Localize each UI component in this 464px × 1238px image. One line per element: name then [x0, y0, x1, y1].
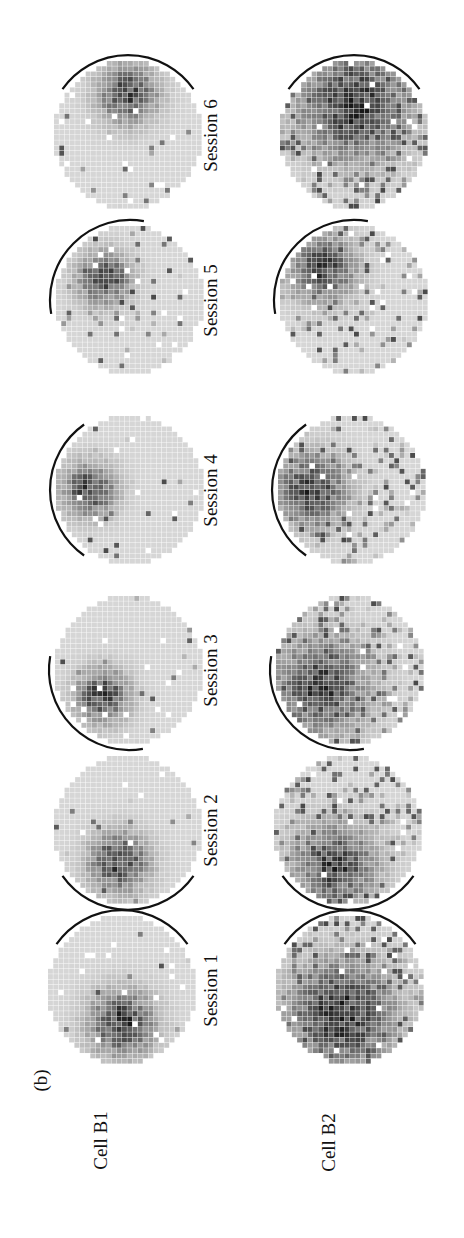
rate-map: [274, 756, 422, 904]
session-label-5: Session 5: [201, 264, 220, 336]
rate-map: [54, 756, 202, 904]
panel-label: (b): [31, 1069, 50, 1091]
session-label-6: Session 6: [201, 99, 220, 171]
rate-map: [276, 596, 424, 744]
rate-map: [280, 226, 428, 374]
rate-map: [56, 416, 204, 564]
session-label-4: Session 4: [201, 454, 220, 526]
session-label-1: Session 1: [201, 954, 220, 1026]
figure-canvas: [0, 0, 464, 1238]
row-label-cell-b1: Cell B1: [90, 1111, 109, 1170]
rate-map: [276, 916, 424, 1064]
session-label-3: Session 3: [201, 634, 220, 706]
rate-map: [280, 61, 428, 209]
session-label-2: Session 2: [201, 794, 220, 866]
rate-map: [278, 416, 426, 564]
rate-map: [56, 226, 204, 374]
rate-map: [54, 61, 202, 209]
rate-map: [48, 916, 196, 1064]
row-label-cell-b2: Cell B2: [318, 1113, 337, 1172]
rate-map: [55, 596, 203, 744]
